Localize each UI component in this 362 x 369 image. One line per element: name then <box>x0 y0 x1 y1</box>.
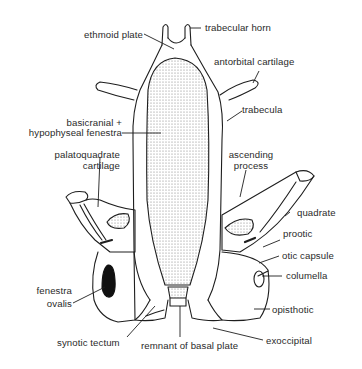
label-prootic: prootic <box>283 228 313 239</box>
label-basicranial-line2: hypophyseal fenestra <box>14 127 122 138</box>
label-palatoquadrate-line1: palatoquadrate <box>20 149 120 160</box>
label-palatoquadrate-line2: cartilage <box>20 160 120 171</box>
label-columella: columella <box>286 270 327 281</box>
antorbital-left <box>96 82 137 100</box>
label-opisthotic: opisthotic <box>272 304 314 315</box>
label-trabecular-horn: trabecular horn <box>205 22 271 33</box>
label-antorbital-cartilage: antorbital cartilage <box>214 56 294 67</box>
trabecular-horn-left <box>162 25 168 46</box>
left-ascending-stipple <box>107 214 129 229</box>
fenestra-ovalis <box>102 265 115 297</box>
label-ascending-line2: process <box>226 160 276 171</box>
label-ethmoid-plate: ethmoid plate <box>74 29 143 40</box>
label-exoccipital: exoccipital <box>266 335 312 346</box>
antorbital-right <box>220 80 258 100</box>
label-remnant-basal-plate: remnant of basal plate <box>141 340 238 351</box>
label-quadrate: quadrate <box>297 207 336 218</box>
label-trabecula: trabecula <box>242 104 282 115</box>
right-ascending-stipple <box>225 219 253 235</box>
label-synotic-tectum: synotic tectum <box>57 337 120 348</box>
label-ascending-line1: ascending <box>226 149 276 160</box>
basal-plate-remnant <box>168 287 188 298</box>
label-fenestra-line1: fenestra <box>20 285 72 296</box>
palatoquadrate-left <box>66 192 88 204</box>
label-fenestra-line2: ovalis <box>20 298 72 309</box>
label-otic-capsule: otic capsule <box>282 250 334 261</box>
exoccipital-right <box>188 300 222 321</box>
basicranial-fenestra <box>147 58 209 285</box>
ethmoid-notch <box>168 38 185 43</box>
